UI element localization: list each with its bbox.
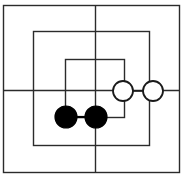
diagram-canvas [0, 0, 183, 176]
hollow-node-right[interactable] [143, 81, 163, 101]
filled-node-right[interactable] [85, 106, 107, 128]
hollow-node-left[interactable] [113, 81, 133, 101]
figure-container [0, 0, 183, 176]
filled-node-left[interactable] [55, 106, 77, 128]
